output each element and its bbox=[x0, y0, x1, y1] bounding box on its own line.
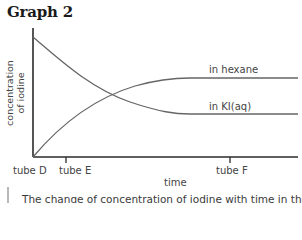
figure-caption: The change of concentration of iodine wi… bbox=[22, 193, 302, 203]
series-label-ki: in KI(aq) bbox=[209, 101, 251, 112]
series-label-hexane: in hexane bbox=[209, 64, 258, 75]
tick-label-tube-f: tube F bbox=[216, 165, 248, 176]
y-axis-label-line2: of iodine bbox=[15, 58, 26, 128]
curve-hexane bbox=[33, 78, 298, 157]
caption-divider bbox=[7, 187, 9, 203]
tick-label-tube-e: tube E bbox=[59, 165, 91, 176]
tick-label-tube-d: tube D bbox=[13, 165, 47, 176]
y-axis-label-line1: concentration bbox=[4, 58, 15, 128]
curve-ki bbox=[33, 37, 298, 114]
x-axis-label: time bbox=[164, 177, 187, 188]
y-axis-label: concentration of iodine bbox=[4, 58, 26, 128]
